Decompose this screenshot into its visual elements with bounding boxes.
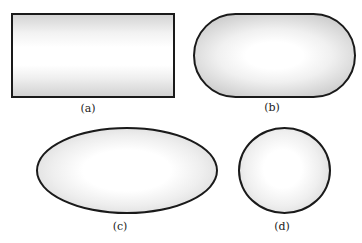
circle-shape [238,127,331,214]
ellipse-shape [36,127,218,214]
panel-label-c: (c) [113,220,128,233]
panel-label-d: (d) [274,220,290,233]
panel-label-b: (b) [264,101,280,114]
panel-label-a: (a) [80,102,95,115]
rectangle-shape [11,13,175,98]
stadium-shape [193,13,356,98]
